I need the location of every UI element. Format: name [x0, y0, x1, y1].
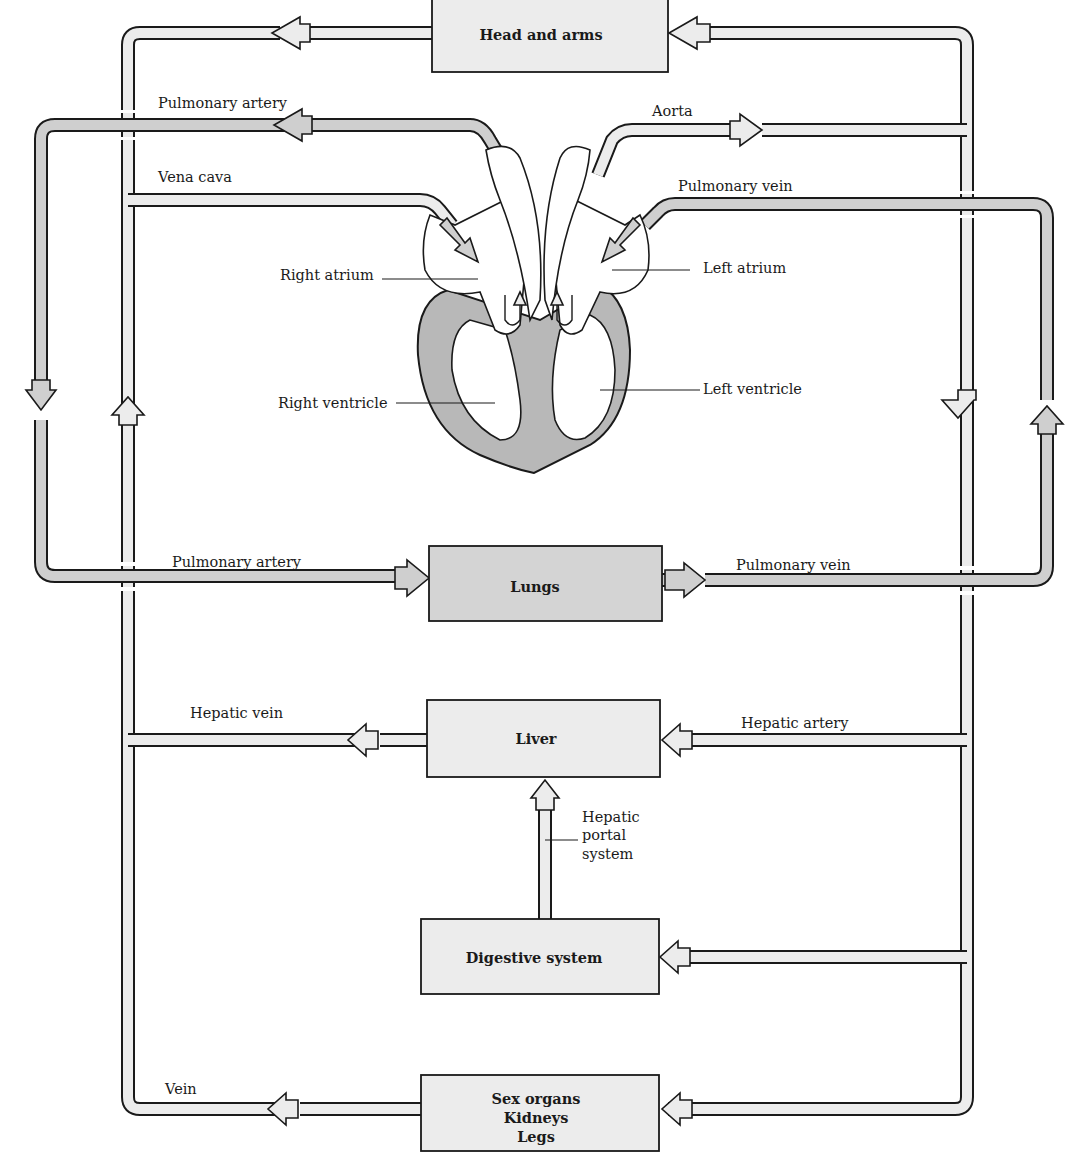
- label-sex-organs: Sex organs: [492, 1090, 581, 1107]
- arrow-right-icon: [665, 563, 705, 597]
- label-left-atrium: Left atrium: [703, 260, 786, 276]
- label-vein: Vein: [164, 1081, 197, 1097]
- arrow-left-icon: [660, 941, 690, 973]
- label-pulmonary-artery-bottom: Pulmonary artery: [172, 554, 302, 570]
- label-vena-cava: Vena cava: [157, 169, 232, 185]
- label-hepatic-portal-2: portal: [582, 827, 626, 843]
- organ-boxes: [421, 0, 668, 1151]
- label-pulmonary-vein-top: Pulmonary vein: [678, 178, 793, 194]
- label-lungs: Lungs: [510, 578, 560, 595]
- label-head-and-arms: Head and arms: [479, 26, 602, 43]
- label-right-atrium: Right atrium: [280, 267, 374, 283]
- label-digestive-system: Digestive system: [466, 949, 603, 966]
- arrow-up-icon: [1031, 406, 1063, 434]
- circulatory-diagram: Head and arms Lungs Liver Digestive syst…: [0, 0, 1075, 1166]
- heart: [418, 146, 649, 473]
- arrow-up-icon: [112, 397, 144, 425]
- arrow-left-icon: [272, 17, 310, 49]
- label-kidneys: Kidneys: [504, 1109, 569, 1126]
- arrow-up-icon: [531, 780, 559, 810]
- label-hepatic-vein: Hepatic vein: [190, 705, 283, 721]
- label-right-ventricle: Right ventricle: [278, 395, 387, 411]
- label-hepatic-portal-1: Hepatic: [582, 809, 640, 825]
- arrow-right-icon: [395, 560, 429, 596]
- label-pulmonary-artery-top: Pulmonary artery: [158, 95, 288, 111]
- arrow-left-icon: [662, 1093, 692, 1125]
- label-legs: Legs: [517, 1128, 555, 1145]
- arrow-left-icon: [268, 1093, 298, 1125]
- label-hepatic-portal-3: system: [582, 846, 633, 862]
- arrow-left-icon: [662, 724, 692, 756]
- label-aorta: Aorta: [651, 103, 693, 119]
- label-pulmonary-vein-bottom: Pulmonary vein: [736, 557, 851, 573]
- arrow-right-icon: [730, 114, 762, 146]
- arrow-down-icon: [26, 380, 56, 410]
- label-left-ventricle: Left ventricle: [703, 381, 802, 397]
- arrow-left-icon: [274, 109, 312, 141]
- label-hepatic-artery: Hepatic artery: [741, 715, 849, 731]
- arrow-left-icon: [348, 724, 378, 756]
- arrow-left-icon: [669, 17, 710, 49]
- label-liver: Liver: [516, 730, 557, 747]
